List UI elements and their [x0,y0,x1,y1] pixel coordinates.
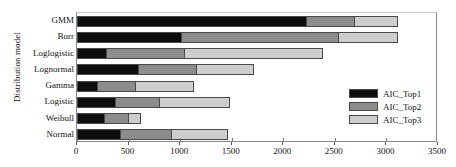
bar-segment-aic_top2 [104,113,128,124]
legend-label: AIC_Top1 [383,89,421,99]
bar-row [77,97,230,108]
y-axis-tick-label: Weibull [8,113,74,123]
bar-segment-aic_top3 [184,48,323,59]
x-axis-tick-mark [437,142,438,145]
y-axis-tick-label: Loglogistic [8,48,74,58]
bar-row [77,32,398,43]
x-axis-tick-label: 3500 [428,146,446,157]
x-axis-tick-mark [128,142,129,145]
bar-row [77,81,194,92]
bar-segment-aic_top1 [77,129,120,140]
x-axis-tick-label: 1000 [170,146,188,157]
bar-segment-aic_top1 [77,48,106,59]
bar-segment-aic_top2 [181,32,338,43]
legend-item: AIC_Top1 [349,88,449,99]
y-axis-tick-label: Logistic [8,96,74,106]
x-axis-tick-labels: 0500100015002000250030003500 [76,142,437,164]
y-axis-tick-label: Gamma [8,80,74,90]
bar-segment-aic_top3 [128,113,141,124]
legend-label: AIC_Top3 [383,115,421,125]
bar-segment-aic_top3 [354,16,398,27]
y-axis-tick-label: Lognormal [8,64,74,74]
legend-swatch-icon [349,115,378,124]
bar-segment-aic_top1 [77,32,181,43]
legend-item: AIC_Top3 [349,114,449,125]
stacked-bar-chart: Distribution model GMMBurrLoglogisticLog… [0,0,456,167]
x-axis-tick-mark [334,142,335,145]
x-axis-inner-tick [283,138,284,141]
x-axis-tick-label: 3000 [376,146,394,157]
legend-swatch-icon [349,89,378,98]
bar-segment-aic_top1 [77,64,138,75]
bar-segment-aic_top1 [77,97,115,108]
x-axis-inner-tick [436,138,437,141]
bar-row [77,16,398,27]
bar-segment-aic_top2 [106,48,184,59]
bar-segment-aic_top3 [135,81,194,92]
x-axis-inner-tick [386,138,387,141]
x-axis-tick-mark [282,142,283,145]
legend-item: AIC_Top2 [349,101,449,112]
x-axis-inner-tick [180,138,181,141]
y-axis-tick-labels: GMMBurrLoglogisticLognormalGammaLogistic… [8,14,74,136]
bar-row [77,113,141,124]
bar-row [77,129,228,140]
bar-segment-aic_top2 [97,81,135,92]
x-axis-inner-tick [129,138,130,141]
x-axis-tick-label: 0 [74,146,79,157]
y-axis-tick-label: Burr [8,31,74,41]
bar-segment-aic_top3 [159,97,230,108]
bar-row [77,64,254,75]
bar-row [77,48,323,59]
bar-segment-aic_top3 [338,32,398,43]
bar-segment-aic_top2 [138,64,196,75]
legend-swatch-icon [349,102,378,111]
x-axis-tick-label: 500 [121,146,135,157]
x-axis-inner-tick [232,138,233,141]
bar-segment-aic_top2 [306,16,354,27]
x-axis-tick-mark [385,142,386,145]
x-axis-inner-tick [335,138,336,141]
bar-segment-aic_top2 [115,97,159,108]
bar-segment-aic_top1 [77,113,104,124]
y-axis-tick-label: GMM [8,15,74,25]
x-axis-tick-mark [179,142,180,145]
bar-segment-aic_top1 [77,81,97,92]
bar-segment-aic_top3 [196,64,254,75]
x-axis-inner-tick [77,138,78,141]
chart-legend: AIC_Top1AIC_Top2AIC_Top3 [349,88,449,127]
x-axis-tick-label: 2000 [273,146,291,157]
y-axis-tick-label: Normal [8,129,74,139]
legend-label: AIC_Top2 [383,102,421,112]
x-axis-tick-mark [231,142,232,145]
x-axis-tick-mark [76,142,77,145]
x-axis-tick-label: 2500 [325,146,343,157]
bar-segment-aic_top1 [77,16,306,27]
x-axis-tick-label: 1500 [222,146,240,157]
